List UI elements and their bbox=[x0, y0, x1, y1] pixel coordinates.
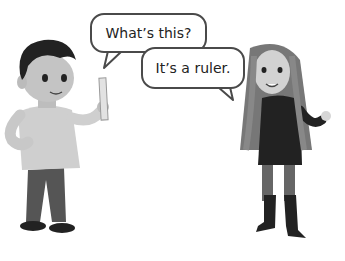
speech-bubble-girl: It’s a ruler. bbox=[141, 47, 245, 89]
bubble-text: It’s a ruler. bbox=[156, 60, 231, 76]
girl-figure bbox=[240, 44, 331, 238]
ruler-icon bbox=[99, 78, 108, 120]
bubble-tail bbox=[104, 51, 122, 68]
illustration-scene: What’s this? It’s a ruler. bbox=[0, 0, 345, 261]
bubble-text: What’s this? bbox=[106, 25, 192, 41]
boy-figure bbox=[10, 40, 109, 233]
